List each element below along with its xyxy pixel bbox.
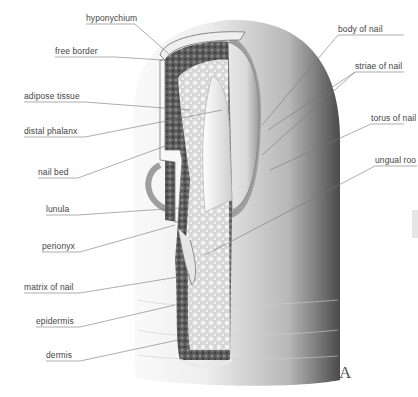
adjacent-figure-edge bbox=[412, 210, 418, 238]
label-striae-of-nail: striae of nail bbox=[355, 61, 402, 71]
label-epidermis: epidermis bbox=[36, 316, 74, 326]
label-adipose-tissue: adipose tissue bbox=[24, 91, 80, 101]
label-free-border: free border bbox=[55, 46, 98, 56]
label-torus-of-nail: torus of nail bbox=[371, 113, 416, 123]
label-distal-phalanx: distal phalanx bbox=[24, 126, 77, 136]
label-dermis: dermis bbox=[46, 350, 72, 360]
label-body-of-nail: body of nail bbox=[338, 24, 383, 34]
label-nail-bed: nail bed bbox=[38, 167, 69, 177]
label-perionyx: perionyx bbox=[42, 241, 75, 251]
plate-letter: A bbox=[339, 363, 351, 383]
label-hyponychium: hyponychium bbox=[86, 13, 137, 23]
label-matrix-of-nail: matrix of nail bbox=[24, 282, 74, 292]
label-lunula: lunula bbox=[46, 204, 69, 214]
label-ungual-root: ungual roo bbox=[375, 155, 416, 165]
